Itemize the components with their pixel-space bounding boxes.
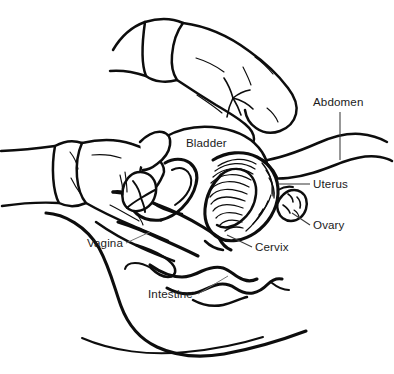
label-cervix: Cervix: [255, 241, 289, 253]
label-uterus: Uterus: [313, 178, 348, 190]
pelvic-exam-figure: Abdomen Bladder Uterus Ovary Cervix Vagi…: [0, 0, 394, 374]
label-abdomen: Abdomen: [313, 96, 363, 108]
label-bladder: Bladder: [186, 137, 227, 149]
label-vagina: Vagina: [87, 237, 123, 249]
label-intestine: Intestine: [148, 288, 193, 300]
label-ovary: Ovary: [313, 219, 345, 231]
